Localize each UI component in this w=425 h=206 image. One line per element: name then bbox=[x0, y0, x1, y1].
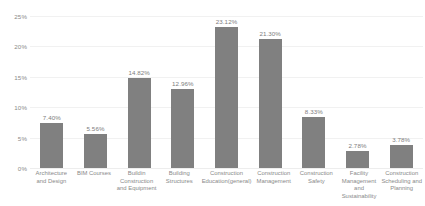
bar-slot: 8.33% bbox=[292, 16, 336, 168]
x-axis-category-label: Construction Scheduling and Planning bbox=[380, 170, 423, 206]
bar-slot: 2.78% bbox=[336, 16, 380, 168]
y-axis-tick: 15% bbox=[14, 73, 27, 80]
bar-value-label: 7.40% bbox=[43, 114, 61, 121]
x-axis-category-label: Construction Safety bbox=[295, 170, 338, 206]
y-axis-tick: 25% bbox=[14, 13, 27, 20]
bar[interactable] bbox=[215, 27, 238, 168]
bar[interactable] bbox=[40, 123, 63, 168]
bar-series: 7.40% 5.56% 14.82% 12.96% 23.12% 21.30% bbox=[30, 16, 423, 168]
x-axis-category-label: Buildin Construction and Equipment bbox=[115, 170, 158, 206]
y-axis-tick: 5% bbox=[18, 134, 27, 141]
bar-slot: 3.78% bbox=[379, 16, 423, 168]
y-axis-tick: 0% bbox=[18, 165, 27, 172]
y-axis: 25% 20% 15% 10% 5% 0% bbox=[0, 0, 30, 206]
bar-value-label: 3.78% bbox=[392, 136, 410, 143]
bar[interactable] bbox=[390, 145, 413, 168]
bar[interactable] bbox=[128, 78, 151, 168]
bar[interactable] bbox=[302, 117, 325, 168]
y-axis-tick: 10% bbox=[14, 104, 27, 111]
x-axis-category-label: Building Structures bbox=[158, 170, 201, 206]
bar-value-label: 21.30% bbox=[259, 30, 281, 37]
bar[interactable] bbox=[259, 39, 282, 169]
x-axis: Architecture and Design BIM Courses Buil… bbox=[30, 170, 423, 206]
bar-chart: 25% 20% 15% 10% 5% 0% 7.40% 5.56% 14.82% bbox=[0, 0, 425, 206]
x-axis-category-label: Construction Education(general) bbox=[201, 170, 253, 206]
bar-slot: 5.56% bbox=[74, 16, 118, 168]
bar-value-label: 2.78% bbox=[349, 142, 367, 149]
bar[interactable] bbox=[346, 151, 369, 168]
x-axis-category-label: Architecture and Design bbox=[30, 170, 73, 206]
bar-slot: 14.82% bbox=[117, 16, 161, 168]
x-axis-category-label: Construction Management bbox=[252, 170, 295, 206]
bar-slot: 7.40% bbox=[30, 16, 74, 168]
bar-value-label: 14.82% bbox=[128, 69, 150, 76]
x-axis-category-label: Facility Management and Sustainability bbox=[338, 170, 381, 206]
bar-value-label: 8.33% bbox=[305, 108, 323, 115]
x-axis-category-label: BIM Courses bbox=[73, 170, 116, 206]
bar-value-label: 5.56% bbox=[86, 125, 104, 132]
bar-slot: 12.96% bbox=[161, 16, 205, 168]
bar-slot: 23.12% bbox=[205, 16, 249, 168]
bar[interactable] bbox=[171, 89, 194, 168]
axis-baseline bbox=[30, 168, 423, 169]
y-axis-tick: 20% bbox=[14, 43, 27, 50]
bar[interactable] bbox=[84, 134, 107, 168]
bar-value-label: 12.96% bbox=[172, 80, 194, 87]
bar-slot: 21.30% bbox=[248, 16, 292, 168]
plot-area: 7.40% 5.56% 14.82% 12.96% 23.12% 21.30% bbox=[30, 16, 423, 168]
bar-value-label: 23.12% bbox=[216, 18, 238, 25]
